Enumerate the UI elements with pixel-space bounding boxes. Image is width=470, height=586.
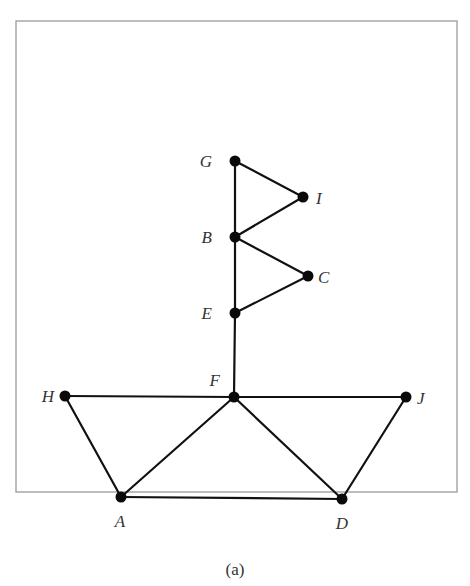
node-label-f: F bbox=[209, 371, 221, 390]
edge-c-e bbox=[235, 276, 308, 313]
node-label-j: J bbox=[417, 389, 426, 408]
edge-a-f bbox=[121, 397, 234, 497]
node-i bbox=[298, 192, 309, 203]
node-label-b: B bbox=[202, 228, 213, 247]
node-f bbox=[229, 392, 240, 403]
figure-caption: (a) bbox=[226, 560, 245, 579]
edge-b-c bbox=[235, 237, 308, 276]
node-label-e: E bbox=[201, 304, 213, 323]
edge-i-b bbox=[235, 197, 303, 237]
edge-j-d bbox=[342, 397, 406, 499]
node-label-c: C bbox=[318, 268, 330, 287]
graph-edges bbox=[65, 161, 406, 499]
node-j bbox=[401, 392, 412, 403]
edge-a-d bbox=[121, 497, 342, 499]
graph-labels: GIBCEFHJAD bbox=[41, 152, 426, 533]
node-e bbox=[230, 308, 241, 319]
node-label-a: A bbox=[114, 512, 126, 531]
node-label-i: I bbox=[315, 189, 323, 208]
edge-g-i bbox=[235, 161, 303, 197]
edge-f-d bbox=[234, 397, 342, 499]
node-label-d: D bbox=[335, 514, 349, 533]
edge-e-f bbox=[234, 313, 235, 397]
edge-h-f bbox=[65, 396, 234, 397]
node-b bbox=[230, 232, 241, 243]
edge-h-a bbox=[65, 396, 121, 497]
node-g bbox=[230, 156, 241, 167]
node-h bbox=[60, 391, 71, 402]
node-label-g: G bbox=[200, 152, 212, 171]
graph-figure: GIBCEFHJAD (a) bbox=[0, 0, 470, 586]
node-c bbox=[303, 271, 314, 282]
node-label-h: H bbox=[41, 387, 56, 406]
node-a bbox=[116, 492, 127, 503]
node-d bbox=[337, 494, 348, 505]
